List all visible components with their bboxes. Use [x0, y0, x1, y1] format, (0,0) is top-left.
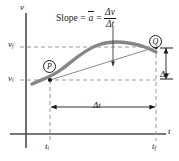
delta-t-label: Δt: [93, 101, 101, 110]
vi-subscript: i: [12, 77, 14, 83]
ti-tick-label: ti: [45, 142, 49, 152]
fraction-numerator: Δv: [104, 8, 116, 18]
v-axis-label: v: [20, 3, 24, 12]
delta-v-over-delta-t-fraction: Δv Δt: [104, 8, 116, 29]
point-p-label: P: [47, 62, 52, 71]
tf-subscript: f: [155, 145, 157, 151]
slope-formula: Slope = a = Δv Δt: [56, 8, 116, 29]
equals-sign-2: =: [96, 14, 101, 24]
point-p-marker: P: [43, 60, 56, 73]
fraction-denominator: Δt: [105, 19, 115, 29]
slope-word: Slope: [56, 14, 78, 24]
vi-tick-label: vi: [8, 74, 14, 84]
velocity-time-graph-figure: Slope = a = Δv Δt v t vf vi ti tf Δt Δv …: [0, 0, 179, 161]
point-p-dot: [48, 78, 52, 82]
equals-sign-1: =: [80, 14, 85, 24]
delta-v-label: Δv: [160, 70, 169, 79]
a-bar-symbol: a: [88, 14, 94, 24]
point-q-marker: Q: [149, 35, 162, 48]
point-q-label: Q: [153, 37, 159, 46]
secant-line-pq: [50, 47, 156, 80]
ti-subscript: i: [48, 145, 50, 151]
vf-subscript: f: [12, 43, 14, 49]
t-axis-label: t: [168, 127, 171, 136]
tf-tick-label: tf: [152, 142, 156, 152]
vf-tick-label: vf: [8, 40, 14, 50]
